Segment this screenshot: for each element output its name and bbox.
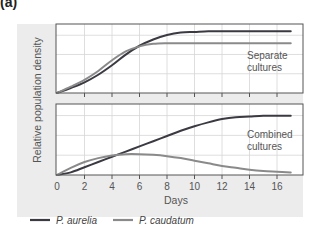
legend-label: P. aurelia bbox=[56, 215, 97, 226]
plot-annotation: Separatecultures bbox=[247, 50, 288, 73]
plot-combined-cultures: Combinedcultures bbox=[56, 104, 303, 179]
x-tick-label: 2 bbox=[82, 181, 88, 192]
y-axis-title: Relative population density bbox=[31, 37, 43, 163]
x-tick-label: 12 bbox=[216, 181, 228, 192]
x-tick-label: 8 bbox=[164, 181, 170, 192]
x-tick-label: 0 bbox=[54, 181, 60, 192]
chart-figure: SeparateculturesCombinedcultures 0246810… bbox=[0, 0, 321, 252]
x-axis-title: Days bbox=[164, 194, 188, 206]
x-tick-label: 16 bbox=[271, 181, 283, 192]
x-tick-label: 4 bbox=[109, 181, 115, 192]
x-tick-label: 14 bbox=[244, 181, 256, 192]
x-tick-label: 6 bbox=[137, 181, 143, 192]
x-tick-label: 10 bbox=[189, 181, 201, 192]
legend-label: P. caudatum bbox=[139, 215, 194, 226]
plot-separate-cultures: Separatecultures bbox=[56, 24, 303, 97]
